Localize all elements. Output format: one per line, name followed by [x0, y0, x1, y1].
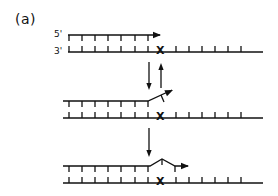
frayed-base-tick: [161, 95, 164, 102]
primer-strand-3: [63, 159, 188, 166]
diagram-canvas: [0, 0, 278, 196]
primer-arrowhead-2: [164, 90, 173, 96]
forward-arrow-2-icon: [146, 150, 151, 157]
mismatch-mark-stage-1: X: [156, 44, 164, 57]
reverse-arrow-1-icon: [158, 63, 163, 70]
panel-label: (a): [15, 11, 36, 27]
dna-mismatch-diagram: (a) 5' 3' X X X: [0, 0, 278, 196]
mismatch-mark-stage-2: X: [156, 110, 164, 123]
mismatch-mark-stage-3: X: [156, 175, 164, 188]
three-prime-label: 3': [54, 46, 62, 56]
five-prime-label: 5': [54, 29, 62, 39]
forward-arrow-1-icon: [146, 83, 151, 90]
primer-arrowhead-1: [153, 32, 161, 38]
primer-arrowhead-3: [181, 163, 189, 169]
primer-strand-2: [63, 90, 172, 101]
